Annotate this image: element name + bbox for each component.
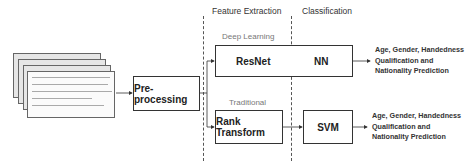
output-deep-line-2: Qualification and — [375, 56, 464, 67]
output-traditional-line-2: Qualification and — [372, 122, 461, 133]
resnet-label: ResNet — [236, 56, 270, 67]
preprocessing-box: Pre-processing — [133, 76, 200, 111]
rank-transform-box: Rank Transform — [215, 110, 283, 144]
output-deep-learning: Age, Gender, Handedness Qualification an… — [375, 45, 464, 77]
output-deep-line-3: Nationality Prediction — [375, 66, 464, 77]
output-deep-line-1: Age, Gender, Handedness — [375, 45, 464, 56]
svm-box: SVM — [303, 110, 353, 144]
rank-transform-label: Rank Transform — [216, 116, 282, 138]
nn-label: NN — [314, 56, 328, 67]
output-traditional-line-1: Age, Gender, Handedness — [372, 111, 461, 122]
resnet-nn-box: ResNet NN — [215, 45, 353, 77]
output-traditional-line-3: Nationality Prediction — [372, 132, 461, 143]
svm-label: SVM — [317, 122, 339, 133]
output-traditional: Age, Gender, Handedness Qualification an… — [372, 111, 461, 143]
preprocessing-label: Pre-processing — [134, 83, 199, 105]
